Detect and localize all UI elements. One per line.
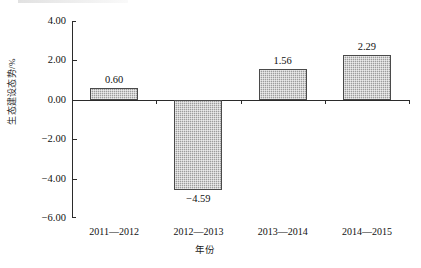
bar [259,69,307,100]
x-axis-category-label: 2013—2014 [241,226,325,237]
y-axis-tick-label: −2.00 [20,134,66,145]
x-axis-tick [409,100,410,104]
y-axis-title: 生态建设态势/% [7,44,18,140]
y-axis-tick-labels: 4.002.000.00−2.00−4.00−6.00 [18,0,66,268]
y-axis-tick-label: −6.00 [20,213,66,224]
x-axis-title: 年份 [0,245,421,256]
bar-value-label: 0.60 [70,74,158,85]
bar-value-label: 2.29 [323,41,411,52]
y-axis-line [72,21,73,218]
x-axis-category-label: 2014—2015 [325,226,409,237]
y-axis-tick-label: 2.00 [20,55,66,66]
bar-chart: 生态建设态势/% 4.002.000.00−2.00−4.00−6.00 0.6… [0,0,421,268]
x-axis-tick [325,100,326,104]
y-axis-tick-label: 4.00 [20,16,66,27]
x-axis-tick [156,100,157,104]
x-axis-title-text: 年份 [195,245,215,256]
bar-value-label: 1.56 [239,55,327,66]
y-axis-cap-top [72,21,76,22]
y-axis-tick [73,139,77,140]
bar [90,88,138,100]
x-axis-category-label: 2011—2012 [72,226,156,237]
y-axis-cap-bottom [72,217,76,218]
y-axis-tick-label: 0.00 [20,95,66,106]
bar-value-label: −4.59 [154,193,242,204]
plot-area: 0.60−4.591.562.29 [72,21,409,218]
bar [174,100,222,190]
y-axis-tick-label: −4.00 [20,174,66,185]
y-axis-tick [73,60,77,61]
x-axis-category-label: 2012—2013 [156,226,240,237]
y-axis-tick [73,179,77,180]
x-axis-tick [241,100,242,104]
bar [343,55,391,100]
